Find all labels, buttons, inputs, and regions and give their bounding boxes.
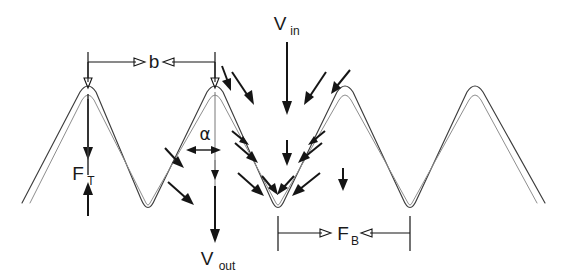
flow-arrow-1: [232, 72, 254, 105]
pitch-dimension-group: b: [84, 51, 219, 88]
vout-mid-arrowhead-icon: [211, 170, 219, 180]
corrugated-sheet-diagram: b F T V in α: [0, 0, 562, 277]
angle-left-arrowhead-icon: [186, 146, 196, 154]
vout-group: V out: [201, 160, 236, 273]
ft-dimension-group: F T: [72, 99, 95, 216]
flow-arrow-5: [235, 143, 258, 163]
flow-arrow-2: [222, 66, 231, 91]
flow-arrow-3: [304, 72, 326, 105]
angle-marker-group: α: [186, 124, 221, 154]
flow-arrow-15: [282, 140, 292, 166]
angle-right-arrowhead-icon: [211, 146, 221, 154]
flow-arrow-7: [298, 143, 322, 163]
flow-arrow-14: [168, 182, 194, 205]
fb-dimension-group: F B: [278, 216, 410, 251]
figure-canvas: b F T V in α: [0, 0, 562, 277]
flow-arrow-6: [238, 173, 264, 196]
vin-label-subscript: in: [290, 24, 299, 38]
flow-arrow-field: [165, 66, 350, 205]
flow-arrow-16: [338, 168, 348, 191]
vin-label-base: V: [274, 13, 287, 34]
fb-label-subscript: B: [351, 234, 359, 248]
vin-group: V in: [274, 13, 300, 115]
vout-label-base: V: [201, 248, 214, 269]
angle-label: α: [199, 124, 210, 144]
fb-label-base: F: [337, 223, 349, 244]
flow-arrow-13: [165, 148, 184, 168]
ft-label-base: F: [72, 163, 84, 184]
vout-arrowhead-icon: [210, 229, 220, 243]
flow-arrow-9: [232, 131, 249, 145]
vin-arrowhead-icon: [282, 101, 292, 115]
pitch-label: b: [149, 51, 160, 72]
flow-arrow-4: [331, 70, 350, 94]
vout-label-subscript: out: [219, 259, 236, 273]
ft-label-subscript: T: [87, 174, 95, 188]
